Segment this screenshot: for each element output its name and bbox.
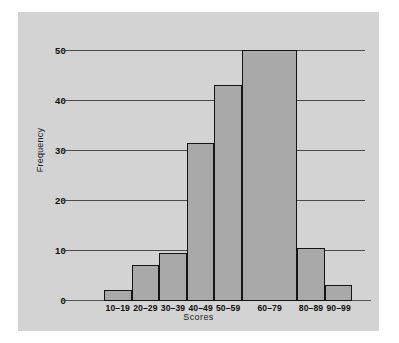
y-tick-mark-50 — [61, 50, 68, 51]
bar-20-29 — [132, 265, 160, 301]
y-tick-mark-10 — [61, 250, 68, 251]
y-axis-tick-labels: 0 10 20 30 40 50 — [18, 12, 66, 331]
bar-80-89 — [297, 248, 325, 302]
y-tick-mark-30 — [61, 150, 68, 151]
y-tick-mark-40 — [61, 100, 68, 101]
chart-panel: Frequency 0 10 20 30 40 50 — [18, 12, 379, 331]
y-tick-mark-0 — [61, 300, 68, 301]
gridline-50 — [68, 50, 365, 51]
bar-40-49 — [187, 143, 215, 302]
bar-50-59 — [214, 85, 242, 301]
y-tick-mark-20 — [61, 200, 68, 201]
bar-90-99 — [325, 285, 353, 301]
plot-area: 10–19 20–29 30–39 40–49 50–59 60–79 80–8… — [68, 12, 379, 331]
bar-30-39 — [159, 253, 187, 302]
bar-10-19 — [104, 290, 132, 301]
x-axis-title: Scores — [18, 312, 379, 322]
bar-60-79 — [242, 50, 297, 301]
figure: Frequency 0 10 20 30 40 50 — [0, 0, 399, 343]
